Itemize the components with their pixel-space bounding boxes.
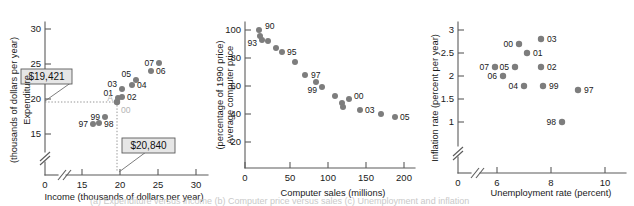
panel-c-point-98 — [559, 119, 565, 125]
panel-c-point-label-99: 99 — [549, 81, 559, 91]
panel-c-y-break-1 — [453, 147, 463, 156]
panel-b-point-04 — [378, 111, 384, 117]
panel-b-point-00 — [346, 96, 352, 102]
panel-c-point-label-06: 06 — [487, 71, 497, 81]
panel-c-point-07 — [492, 64, 498, 70]
panel-b-xlabel-50: 50 — [285, 172, 296, 183]
panel-b-point-label-05: 05 — [400, 112, 410, 122]
panel-b-xlabel-0: 0 — [242, 172, 247, 183]
panel-b-point-93 — [259, 37, 265, 43]
panel-b-plot: 100 80 60 40 20 0 50 100 150 200 — [215, 0, 423, 206]
panel-b-point-label-00: 00 — [354, 91, 364, 101]
panel-c-point-label-01: 01 — [533, 48, 543, 58]
panel-c-point-05 — [512, 64, 518, 70]
panel-c-point-99 — [540, 83, 546, 89]
panel-c-point-02 — [538, 64, 544, 70]
panel-a-y-axis-title-line2: (thousands of dollars per year) — [9, 37, 19, 163]
figure-caption-strip: (a) Expenditure versus income (b) Comput… — [0, 196, 634, 206]
panel-c-y-axis-title: Inflation rate (percent per year) — [430, 34, 440, 162]
panel-a-point-06 — [148, 68, 154, 74]
panel-expenditure-vs-income: 30 25 20 15 0 15 20 25 30 — [0, 0, 215, 206]
panel-c-point-label-97: 97 — [584, 85, 594, 95]
panel-b-point-90 — [256, 27, 262, 33]
panel-a-point-03 — [119, 86, 125, 92]
panel-a-xlabel-0: 0 — [42, 179, 47, 190]
panel-b-xlabel-150: 150 — [358, 172, 374, 183]
panel-a-callout-19421-text: $19,421 — [28, 71, 65, 82]
panel-b-point-03 — [357, 107, 363, 113]
panel-b-point-label-99: 99 — [307, 85, 317, 95]
panel-a-leader-19421 — [45, 82, 72, 101]
panel-b-point-02 — [340, 104, 346, 110]
panel-c-xlabel-8: 8 — [548, 177, 553, 188]
panel-b-point-label-95: 95 — [287, 47, 297, 57]
panel-a-ylabel-15: 15 — [30, 128, 41, 139]
panel-c-point-00 — [516, 41, 522, 47]
panel-b-point-99b — [332, 93, 338, 99]
panel-c-xlabel-10: 10 — [600, 177, 611, 188]
panel-b-xlabel-200: 200 — [396, 172, 412, 183]
panel-inflation-vs-unemployment: 3 2.5 2 1.5 1 0 6 8 10 9 — [423, 0, 634, 206]
panel-c-point-97 — [575, 87, 581, 93]
panel-b-point-95 — [279, 49, 285, 55]
panel-c-ylabel-2.0: 2 — [449, 70, 454, 81]
panel-a-point-label-03: 03 — [107, 79, 117, 89]
panel-b-point-label-97: 97 — [311, 70, 321, 80]
panel-a-point-label-04: 04 — [137, 80, 147, 90]
panel-c-ylabel-1.5: 1.5 — [441, 93, 454, 104]
panel-a-point-label-05: 05 — [121, 69, 131, 79]
panel-a-plot: 30 25 20 15 0 15 20 25 30 — [0, 0, 215, 206]
panel-b-y-axis-title-line1: Average computer price — [225, 46, 235, 145]
panel-c-point-03 — [538, 36, 544, 42]
panel-c-xlabel-6: 6 — [494, 177, 499, 188]
panel-a-point-label-97: 97 — [78, 119, 88, 129]
panel-a-point-label-98: 98 — [104, 119, 114, 129]
panel-c-plot: 3 2.5 2 1.5 1 0 6 8 10 9 — [423, 0, 634, 206]
panel-c-point-label-07: 07 — [479, 62, 489, 72]
panel-c-ylabel-3.0: 3 — [449, 24, 454, 35]
three-panel-scatter-figure: 30 25 20 15 0 15 20 25 30 — [0, 0, 634, 206]
panel-a-xlabel-30: 30 — [191, 179, 202, 190]
panel-b-point-05 — [392, 114, 398, 120]
panel-a-ylabel-25: 25 — [30, 58, 41, 69]
panel-a-point-label-06: 06 — [156, 66, 166, 76]
panel-a-ylabel-30: 30 — [30, 23, 41, 34]
panel-c-ylabel-2.5: 2.5 — [441, 47, 454, 58]
panel-c-ylabel-1.0: 1 — [449, 116, 454, 127]
panel-computer-price-vs-sales: 100 80 60 40 20 0 50 100 150 200 — [215, 0, 423, 206]
panel-a-point-label-00: 00 — [121, 105, 131, 115]
panel-b-ylabel-100: 100 — [225, 24, 241, 35]
panel-a-xlabel-15: 15 — [77, 179, 88, 190]
panel-a-point-04 — [129, 82, 135, 88]
panel-a-ylabel-20: 20 — [30, 93, 41, 104]
panel-a-y-break-1 — [40, 152, 50, 161]
panel-b-point-99 — [319, 84, 325, 90]
panel-a-point-label-02: 02 — [127, 92, 137, 102]
panel-c-point-label-04: 04 — [508, 81, 518, 91]
panel-c-xlabel-0: 0 — [455, 177, 460, 188]
panel-a-leader-20840 — [119, 152, 146, 172]
panel-b-point-94 — [265, 38, 271, 44]
figure-caption-partial: (a) Expenditure versus income (b) Comput… — [90, 196, 469, 206]
panel-b-point-label-90: 90 — [265, 21, 275, 31]
panel-a-point-label-A: A — [107, 93, 113, 103]
panel-c-point-06 — [500, 73, 506, 79]
panel-a-xlabel-20: 20 — [115, 179, 126, 190]
panel-b-point-97 — [302, 72, 308, 78]
panel-c-point-label-98: 98 — [546, 117, 556, 127]
panel-a-point-label-07: 07 — [144, 58, 154, 68]
panel-b-y-axis-title-line2: (percentage of 1990 price) — [215, 40, 225, 149]
panel-c-point-label-00: 00 — [503, 39, 513, 49]
panel-a-point-02 — [119, 94, 125, 100]
panel-a-xlabel-25: 25 — [153, 179, 164, 190]
panel-b-point-96 — [292, 59, 298, 65]
panel-b-point-label-03: 03 — [365, 105, 375, 115]
panel-b-xlabel-100: 100 — [320, 172, 336, 183]
panel-c-point-label-03: 03 — [547, 34, 557, 44]
panel-c-point-04 — [521, 83, 527, 89]
panel-c-point-label-05: 05 — [499, 62, 509, 72]
panel-c-point-label-02: 02 — [547, 62, 557, 72]
panel-a-y-axis-title-line1: Expenditure — [22, 75, 32, 125]
panel-a-callout-20840-text: $20,840 — [130, 140, 167, 151]
panel-c-point-01 — [524, 50, 530, 56]
